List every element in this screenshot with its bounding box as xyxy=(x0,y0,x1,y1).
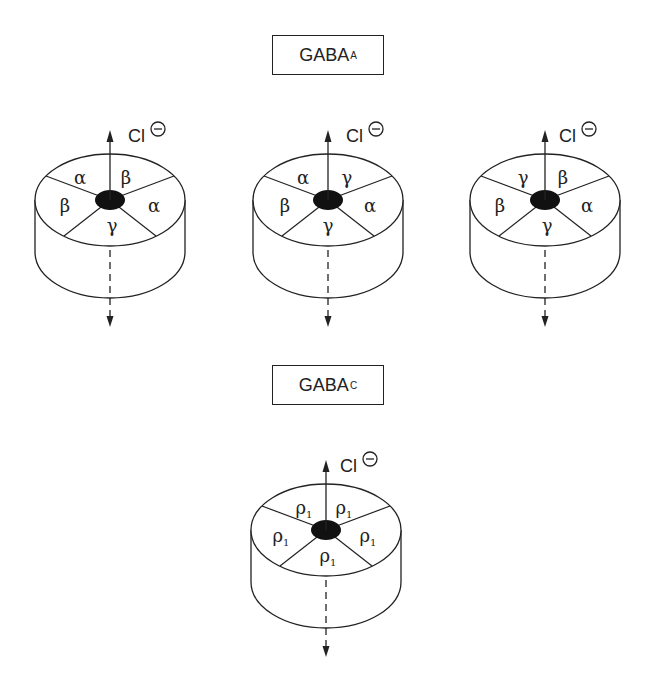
subunit-right: α xyxy=(364,195,376,216)
gaba-a-receptor-2: Cl α γ β α γ xyxy=(253,122,403,327)
chloride-ion-label: Cl xyxy=(346,126,363,146)
subunit-top-left: α xyxy=(297,167,309,188)
subunit-top-right: β xyxy=(121,167,131,188)
subunit-right: α xyxy=(581,195,593,216)
subunit-bottom: γ xyxy=(107,215,118,236)
subunit-bottom: γ xyxy=(323,215,334,236)
subunit-top-left: α xyxy=(74,167,86,188)
subunit-bottom: γ xyxy=(542,215,553,236)
receptor-diagram: Cl α β β α γ Cl α γ β α γ Cl γ β β α γ xyxy=(0,0,659,690)
chloride-ion-label: Cl xyxy=(559,126,576,146)
chloride-ion-label: Cl xyxy=(128,126,145,146)
subunit-right: α xyxy=(148,195,160,216)
subunit-left: β xyxy=(280,195,290,216)
subunit-top-right: γ xyxy=(342,167,353,188)
gaba-a-receptor-1: Cl α β β α γ xyxy=(35,122,185,327)
gaba-c-receptor: Cl ρ1 ρ1 ρ1 ρ1 ρ1 xyxy=(251,452,401,657)
subunit-top-right: β xyxy=(558,167,568,188)
subunit-top-left: γ xyxy=(518,167,529,188)
chloride-ion-label: Cl xyxy=(340,456,357,476)
gaba-a-receptor-3: Cl γ β β α γ xyxy=(470,122,620,327)
subunit-left: β xyxy=(495,195,505,216)
subunit-left: β xyxy=(60,195,70,216)
